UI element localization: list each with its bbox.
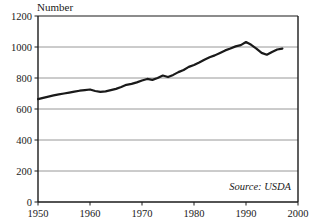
x-tick-label-1960: 1960 <box>80 208 101 219</box>
source-note: Source: USDA <box>229 181 291 192</box>
x-tick-label-2000: 2000 <box>288 208 309 219</box>
x-tick-label-1950: 1950 <box>28 208 49 219</box>
y-tick-label-1200: 1200 <box>11 11 32 22</box>
x-tick-label-1980: 1980 <box>184 208 205 219</box>
y-tick-label-0: 0 <box>27 197 32 208</box>
y-tick-label-400: 400 <box>16 135 32 146</box>
y-axis-title: Number <box>37 1 73 13</box>
y-tick-label-200: 200 <box>16 166 32 177</box>
x-tick-label-1990: 1990 <box>236 208 257 219</box>
x-tick-label-1970: 1970 <box>132 208 153 219</box>
y-tick-label-600: 600 <box>16 104 32 115</box>
chart-container: Number 020040060080010001200 19501960197… <box>0 0 329 219</box>
y-tick-label-800: 800 <box>16 73 32 84</box>
line-chart: Number 020040060080010001200 19501960197… <box>0 0 329 219</box>
y-tick-label-1000: 1000 <box>11 42 32 53</box>
